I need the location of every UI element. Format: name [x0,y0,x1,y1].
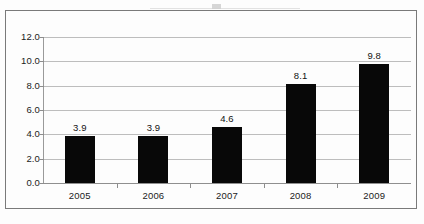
x-tick-label: 2008 [276,190,326,202]
y-axis-tick [39,159,44,160]
bar[interactable] [212,127,242,183]
y-tick-label: 4.0 [8,129,40,139]
scan-artifact-line [150,8,300,9]
bar[interactable] [138,136,168,183]
bar-value-label: 3.9 [133,122,173,133]
x-axis-labels: 20052006200720082009 [43,190,411,206]
plot-area: 3.93.94.68.19.8 [43,37,411,183]
y-axis-tick [39,183,44,184]
bars-layer: 3.93.94.68.19.8 [43,37,411,183]
chart-screenshot: 12.010.08.06.04.02.00.0 3.93.94.68.19.8 … [0,0,424,224]
x-tick-label: 2006 [128,190,178,202]
x-tick-label: 2009 [349,190,399,202]
y-axis-tick [39,110,44,111]
bar[interactable] [359,64,389,183]
y-tick-label: 10.0 [8,56,40,66]
y-axis-tick [39,37,44,38]
y-axis-tick [39,61,44,62]
y-axis-labels: 12.010.08.06.04.02.00.0 [6,37,40,183]
x-tick-label: 2005 [55,190,105,202]
y-tick-label: 2.0 [8,154,40,164]
x-tick-label: 2007 [202,190,252,202]
x-axis-tick [337,184,338,188]
y-tick-label: 0.0 [8,178,40,188]
bar-value-label: 9.8 [354,50,394,61]
y-tick-label: 6.0 [8,105,40,115]
bar-value-label: 3.9 [60,122,100,133]
bar[interactable] [286,84,316,183]
y-axis-tick [39,86,44,87]
bar-value-label: 8.1 [281,70,321,81]
scan-artifact-mark [212,4,221,9]
y-axis-tick [39,134,44,135]
chart-frame: 12.010.08.06.04.02.00.0 3.93.94.68.19.8 … [5,10,417,209]
y-tick-label: 8.0 [8,81,40,91]
bar[interactable] [65,136,95,183]
x-axis-tick [264,184,265,188]
y-tick-label: 12.0 [8,32,40,42]
gridline [43,183,411,184]
x-axis-tick [117,184,118,188]
x-axis-tick [190,184,191,188]
bar-value-label: 4.6 [207,113,247,124]
